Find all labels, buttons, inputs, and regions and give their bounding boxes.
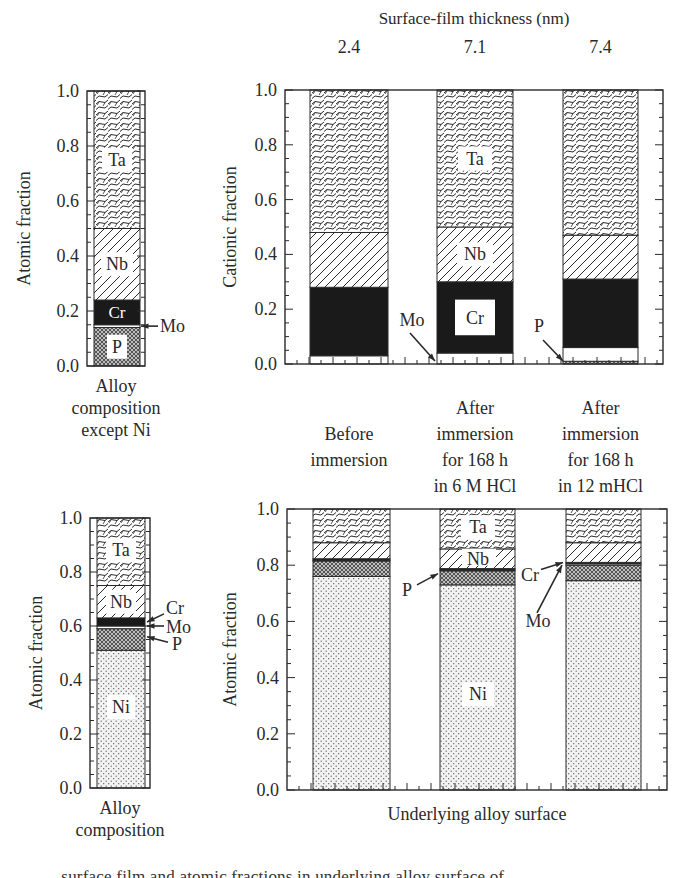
- thickness-label: 7.4: [589, 37, 612, 57]
- y-axis-label: Atomic fraction: [14, 171, 34, 285]
- caption-text: ...surface film and atomic fractions in …: [0, 866, 700, 878]
- x-axis-label: composition: [76, 820, 165, 840]
- x-category-label: for 168 h: [568, 450, 634, 470]
- segment-label-cr: Cr: [466, 308, 484, 328]
- x-axis-label: Underlying alloy surface: [388, 804, 567, 824]
- bar-segment-cr: [563, 279, 638, 348]
- x-axis-label: Alloy: [99, 798, 140, 818]
- bar-segment-mo: [310, 356, 388, 364]
- bar-segment-ta: [310, 90, 388, 232]
- bar-segment-ta: [563, 90, 638, 235]
- bar-segment-ta: [566, 509, 641, 543]
- panel-alloy-except-ni: 0.00.20.40.60.81.0Atomic fractionTaNbCrP…: [14, 81, 185, 440]
- segment-label-nb: Nb: [110, 592, 132, 612]
- figure-canvas: Surface-film thickness (nm) 0.00.20.40.6…: [0, 0, 700, 878]
- x-category-label: immersion: [562, 424, 639, 444]
- figure: Surface-film thickness (nm) 0.00.20.40.6…: [0, 0, 700, 878]
- bar-segment-mo: [437, 353, 513, 364]
- bar-segment-cr: [97, 618, 145, 626]
- y-tick-label: 0.0: [60, 778, 83, 798]
- annotation-p: P: [402, 580, 412, 600]
- x-category-label: immersion: [437, 424, 514, 444]
- segment-label-ni: Ni: [469, 684, 487, 704]
- bar-segment-p: [566, 565, 641, 580]
- bar-segment-p: [97, 629, 145, 651]
- y-tick-label: 0.8: [257, 555, 280, 575]
- bar-segment-p: [313, 561, 390, 576]
- y-tick-label: 0.6: [257, 611, 280, 631]
- segment-label-nb: Nb: [464, 244, 486, 264]
- y-tick-label: 0.8: [255, 135, 278, 155]
- y-tick-label: 0.6: [60, 616, 83, 636]
- annotation-mo: Mo: [399, 310, 424, 330]
- segment-label-ni: Ni: [112, 697, 130, 717]
- thickness-label: 7.1: [464, 37, 487, 57]
- x-category-label: in 6 M HCl: [434, 476, 517, 496]
- arrow-icon: [430, 574, 438, 580]
- bar-segment-ni: [566, 581, 641, 790]
- panel-underlying-alloy: 0.00.20.40.60.81.0Atomic fractionTaNbNiP…: [220, 499, 667, 824]
- y-tick-label: 1.0: [257, 499, 280, 519]
- bar-segment-ta: [313, 509, 390, 543]
- y-tick-label: 0.2: [255, 299, 278, 319]
- segment-label-ta: Ta: [112, 540, 130, 560]
- y-tick-label: 0.2: [257, 724, 280, 744]
- y-tick-label: 0.2: [60, 724, 83, 744]
- x-category-label: After: [456, 398, 494, 418]
- annotation-mo: Mo: [160, 316, 185, 336]
- x-axis-label: except Ni: [81, 420, 150, 440]
- bar-segment-cr: [310, 287, 388, 356]
- y-tick-label: 0.2: [57, 301, 80, 321]
- bar-segment-mo: [563, 348, 638, 362]
- arrow-icon: [147, 616, 155, 622]
- x-category-label: Before: [325, 424, 374, 444]
- panel-alloy-composition: 0.00.20.40.60.81.0Atomic fractionTaNbNiC…: [26, 508, 191, 840]
- y-tick-label: 0.4: [57, 246, 80, 266]
- thickness-label: 2.4: [338, 37, 361, 57]
- annotation-p: P: [172, 634, 182, 654]
- y-tick-label: 0.4: [255, 244, 278, 264]
- segment-label-ta: Ta: [108, 150, 126, 170]
- segment-label-ta: Ta: [469, 517, 487, 537]
- annotation-p: P: [534, 316, 544, 336]
- y-tick-label: 1.0: [60, 508, 83, 528]
- bar-segment-nb: [566, 543, 641, 563]
- y-tick-label: 0.0: [257, 780, 280, 800]
- y-axis-label: Atomic fraction: [220, 592, 240, 706]
- y-axis-label: Cationic fraction: [220, 166, 240, 287]
- x-category-label: for 168 h: [442, 450, 508, 470]
- y-tick-label: 0.0: [57, 356, 80, 376]
- clipped-caption: ...surface film and atomic fractions in …: [0, 866, 700, 878]
- y-tick-label: 0.4: [60, 670, 83, 690]
- bar-segment-ni: [313, 576, 390, 790]
- panel-surface-film: 0.00.20.40.60.81.0Cationic fraction2.47.…: [220, 37, 663, 496]
- segment-label-ta: Ta: [466, 149, 484, 169]
- bar-segment-nb: [563, 235, 638, 279]
- segment-label-p: P: [112, 337, 122, 357]
- annotation-mo: Mo: [525, 611, 550, 631]
- top-title: Surface-film thickness (nm): [379, 9, 570, 28]
- y-tick-label: 0.8: [57, 136, 80, 156]
- x-category-label: After: [582, 398, 620, 418]
- bar-segment-p: [440, 571, 515, 585]
- x-axis-label: composition: [72, 398, 161, 418]
- annotation-cr: Cr: [521, 565, 539, 585]
- y-tick-label: 1.0: [57, 81, 80, 101]
- arrow-icon: [147, 623, 155, 628]
- y-tick-label: 0.0: [255, 354, 278, 374]
- y-tick-label: 0.4: [257, 668, 280, 688]
- svg-text:Cr: Cr: [109, 303, 126, 322]
- y-tick-label: 1.0: [255, 80, 278, 100]
- y-axis-label: Atomic fraction: [26, 596, 46, 710]
- x-axis-label: Alloy: [95, 376, 136, 396]
- y-tick-label: 0.8: [60, 562, 83, 582]
- bar-segment-nb: [310, 232, 388, 287]
- arrow-icon: [147, 636, 155, 641]
- x-category-label: immersion: [311, 450, 388, 470]
- bar-segment-ni: [97, 650, 145, 788]
- x-category-label: in 12 mHCl: [558, 476, 643, 496]
- annotation-cr: Cr: [166, 598, 184, 618]
- segment-label-nb: Nb: [467, 549, 489, 569]
- y-tick-label: 0.6: [57, 191, 80, 211]
- segment-label-nb: Nb: [106, 254, 128, 274]
